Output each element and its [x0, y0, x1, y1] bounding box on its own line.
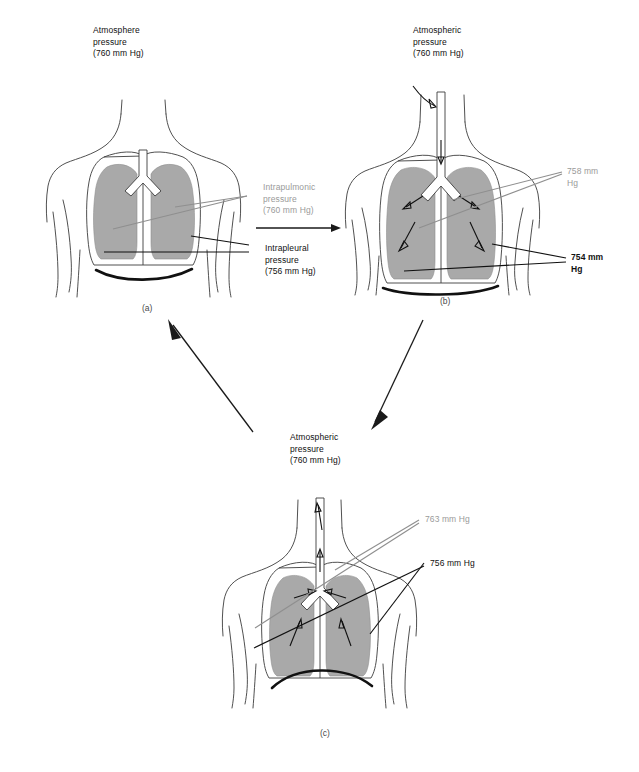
lung-right-c: [326, 575, 371, 676]
panel-c-label-756: 756 mm Hg: [430, 558, 475, 570]
panel-a-illustration: [46, 100, 249, 297]
diagram-canvas: [0, 0, 639, 772]
panel-a-label-intrapleural: Intrapleural pressure (756 mm Hg): [265, 243, 316, 278]
diaphragm-a: [96, 269, 192, 280]
leader-intrapleural-a: [191, 236, 249, 245]
leader-756-c: [370, 563, 424, 634]
lung-left-b: [387, 167, 436, 279]
panel-a-heading: Atmosphere pressure (760 mm Hg): [93, 25, 144, 60]
panel-c-letter: (c): [320, 728, 330, 738]
panel-b-label-758: 758 mm Hg: [567, 166, 598, 189]
panel-a-label-intrapulmonic: Intrapulmonic pressure (760 mm Hg): [263, 182, 315, 217]
panel-a-letter: (a): [142, 303, 152, 313]
cycle-arrow-b-to-c: [371, 320, 423, 430]
panel-b-letter: (b): [440, 296, 450, 306]
lung-right-a: [151, 164, 195, 259]
panel-c-heading: Atmospheric pressure (760 mm Hg): [290, 432, 341, 467]
panel-b-illustration: [345, 86, 566, 295]
panel-c-illustration: [222, 498, 424, 708]
leader-763-c: [335, 520, 419, 570]
respiratory-pressure-diagram: Atmosphere pressure (760 mm Hg) Intrapul…: [0, 0, 639, 772]
diaphragm-b: [383, 286, 498, 295]
lung-left-c: [270, 575, 315, 676]
lung-left-a: [94, 164, 138, 259]
panel-b-heading: Atmospheric pressure (760 mm Hg): [413, 25, 464, 60]
panel-c-label-763: 763 mm Hg: [425, 514, 470, 526]
cycle-arrow-a-to-b: [256, 224, 341, 232]
cycle-arrow-c-to-a: [168, 319, 253, 432]
lung-right-b: [447, 167, 496, 279]
panel-b-label-754: 754 mm Hg: [571, 252, 603, 275]
